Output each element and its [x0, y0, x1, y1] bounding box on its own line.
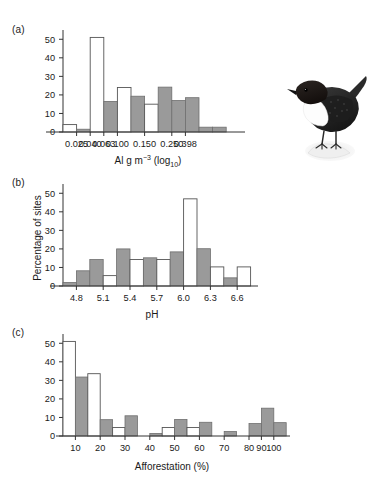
panel-b-yaxis-title: Percentage of sites	[32, 195, 43, 281]
dipper-bird-illustration	[286, 58, 376, 166]
histogram-bar	[63, 341, 75, 436]
panel-c-bars	[63, 341, 286, 436]
histogram-bar	[157, 259, 170, 286]
histogram-bar	[170, 252, 183, 286]
histogram-bar	[213, 127, 227, 132]
panel-a-ytick-50: 50	[45, 35, 55, 45]
panel-b-ytick-30: 30	[45, 226, 55, 236]
histogram-bar	[143, 258, 156, 286]
panel-c-ytick-40: 40	[45, 357, 55, 367]
histogram-bar	[237, 267, 250, 286]
histogram-bar	[162, 427, 174, 436]
bird-eye-glint	[305, 89, 306, 90]
histogram-bar	[100, 420, 112, 436]
panel-c-ytick-10: 10	[45, 413, 55, 423]
bird-beak	[287, 89, 296, 95]
panel-a-xticks: 0.0250.0400.0630.1000.1500.2500.398	[65, 132, 197, 149]
histogram-bar	[197, 249, 210, 286]
panel-c-xtick-100: 100	[266, 443, 281, 453]
panel-c-xtick-70: 70	[219, 443, 229, 453]
histogram-bar	[103, 276, 116, 286]
figure-root: (a) 01020304050 0.0250.0400.0630.1000.15…	[0, 0, 380, 480]
panel-a-xaxis-title: Al g m−3 (log10)	[115, 154, 182, 168]
panel-b-ytick-10: 10	[45, 263, 55, 273]
panel-a-xtick-0.100: 0.100	[106, 139, 129, 149]
panel-a-xtick-0.398: 0.398	[174, 139, 197, 149]
histogram-bar	[199, 422, 211, 436]
panel-b-ytick-20: 20	[45, 244, 55, 254]
panel-a-plot: 01020304050 0.0250.0400.0630.1000.1500.2…	[0, 14, 270, 169]
panel-a-ytick-20: 20	[45, 90, 55, 100]
panel-c-ytick-20: 20	[45, 394, 55, 404]
panel-c-xticks: 102030405060708090100	[70, 436, 281, 453]
histogram-bar	[185, 98, 199, 132]
panel-c-xtick-50: 50	[169, 443, 179, 453]
histogram-bar	[175, 419, 187, 436]
panel-a-ytick-30: 30	[45, 72, 55, 82]
histogram-bar	[224, 432, 236, 436]
histogram-bar	[88, 374, 100, 436]
histogram-bar	[274, 423, 286, 436]
panel-b-ytick-40: 40	[45, 207, 55, 217]
histogram-bar	[187, 427, 199, 436]
panel-b-xtick-6.0: 6.0	[177, 293, 190, 303]
histogram-bar	[131, 96, 145, 132]
panel-c-xtick-90: 90	[256, 443, 266, 453]
histogram-bar	[76, 271, 89, 286]
histogram-bar	[90, 259, 103, 286]
panel-c-xaxis-title: Afforestation (%)	[135, 461, 209, 472]
panel-c: 01020304050 102030405060708090100 Affore…	[0, 318, 310, 478]
panel-b-bars	[63, 199, 251, 286]
panel-c-yticks: 01020304050	[45, 339, 63, 442]
panel-b-xtick-6.6: 6.6	[231, 293, 244, 303]
bird-icon	[286, 58, 376, 166]
panel-b-ytick-50: 50	[45, 189, 55, 199]
histogram-bar	[75, 377, 87, 436]
panel-b-xtick-5.4: 5.4	[124, 293, 137, 303]
panel-c-ytick-0: 0	[50, 431, 55, 441]
panel-a-ytick-40: 40	[45, 53, 55, 63]
histogram-bar	[224, 278, 237, 286]
histogram-bar	[158, 87, 172, 132]
panel-a-ytick-10: 10	[45, 109, 55, 119]
histogram-bar	[125, 416, 137, 436]
panel-c-xtick-10: 10	[70, 443, 80, 453]
histogram-bar	[63, 282, 76, 286]
histogram-bar	[261, 408, 273, 436]
panel-b-yticks: 01020304050	[45, 189, 63, 292]
histogram-bar	[117, 87, 131, 132]
histogram-bar	[130, 259, 143, 286]
panel-b-xtick-5.1: 5.1	[97, 293, 110, 303]
panel-c-plot: 01020304050 102030405060708090100 Affore…	[0, 318, 310, 478]
panel-b-plot: Percentage of sites 01020304050 4.85.15.…	[0, 168, 280, 323]
histogram-bar	[199, 127, 213, 132]
panel-a-yticks: 01020304050	[45, 35, 63, 138]
histogram-bar	[210, 267, 223, 286]
panel-c-ytick-50: 50	[45, 339, 55, 349]
panel-b-xtick-4.8: 4.8	[70, 293, 83, 303]
panel-a: 01020304050 0.0250.0400.0630.1000.1500.2…	[0, 14, 270, 169]
bird-head	[296, 81, 328, 105]
panel-b-xtick-5.7: 5.7	[150, 293, 163, 303]
histogram-bar	[249, 424, 261, 436]
panel-a-bars	[63, 37, 226, 132]
histogram-bar	[113, 427, 125, 436]
panel-c-xtick-40: 40	[145, 443, 155, 453]
histogram-bar	[117, 249, 130, 286]
panel-c-xtick-60: 60	[194, 443, 204, 453]
panel-c-xtick-30: 30	[120, 443, 130, 453]
histogram-bar	[172, 100, 186, 132]
panel-b-xtick-6.3: 6.3	[204, 293, 217, 303]
panel-c-ytick-30: 30	[45, 376, 55, 386]
panel-c-xtick-20: 20	[95, 443, 105, 453]
panel-c-xtick-80: 80	[244, 443, 254, 453]
histogram-bar	[104, 101, 118, 132]
panel-b-xticks: 4.85.15.45.76.06.36.6	[70, 286, 244, 303]
histogram-bar	[63, 125, 77, 132]
panel-a-xtick-0.150: 0.150	[133, 139, 156, 149]
histogram-bar	[90, 37, 104, 132]
histogram-bar	[184, 199, 197, 286]
panel-b: Percentage of sites 01020304050 4.85.15.…	[0, 168, 280, 323]
bird-eye	[304, 88, 307, 91]
histogram-bar	[145, 104, 159, 132]
